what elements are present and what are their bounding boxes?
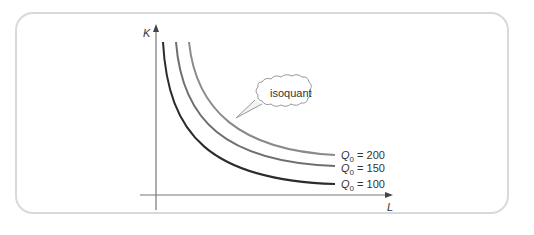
x-axis-arrow-icon (385, 192, 393, 198)
y-axis-label: K (143, 27, 150, 39)
curve-label-100: Q0 = 100 (341, 178, 385, 193)
isoquant-chart (0, 0, 534, 235)
y-axis-arrow-icon (153, 24, 159, 32)
callout-text: isoquant (270, 87, 312, 99)
x-axis-label: L (387, 201, 393, 213)
isoquant-curve-100 (163, 42, 335, 184)
curve-label-150: Q0 = 150 (341, 162, 385, 177)
